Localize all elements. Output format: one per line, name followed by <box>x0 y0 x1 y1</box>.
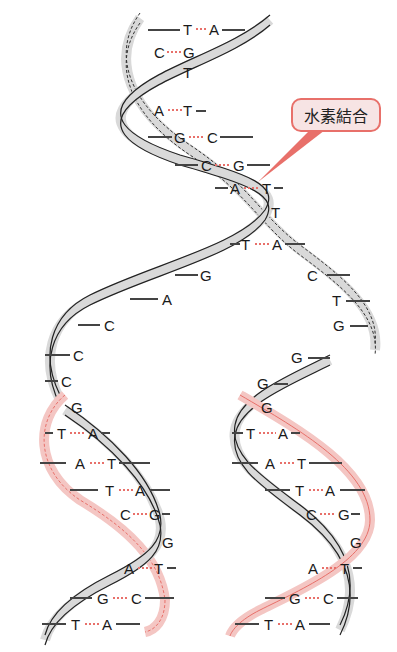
svg-text:A: A <box>278 425 288 442</box>
svg-text:G: G <box>257 375 269 392</box>
svg-text:T: T <box>154 560 163 577</box>
svg-text:A: A <box>325 482 335 499</box>
svg-text:A: A <box>272 236 282 253</box>
svg-text:A: A <box>88 425 98 442</box>
svg-text:C: C <box>120 506 131 523</box>
svg-text:A: A <box>308 560 318 577</box>
svg-text:G: G <box>162 534 174 551</box>
svg-text:T: T <box>57 425 66 442</box>
svg-text:T: T <box>107 455 116 472</box>
svg-text:A: A <box>154 102 164 119</box>
svg-text:G: G <box>200 267 212 284</box>
svg-text:A: A <box>124 560 134 577</box>
svg-text:T: T <box>262 180 271 197</box>
svg-text:A: A <box>295 616 305 633</box>
svg-text:G: G <box>333 317 345 334</box>
svg-text:T: T <box>71 616 80 633</box>
svg-text:T: T <box>105 482 114 499</box>
parent-strand-front <box>50 20 270 400</box>
svg-text:A: A <box>230 180 240 197</box>
svg-text:T: T <box>264 616 273 633</box>
svg-text:C: C <box>131 590 142 607</box>
svg-text:T: T <box>295 482 304 499</box>
svg-text:C: C <box>154 44 165 61</box>
svg-text:G: G <box>183 44 195 61</box>
svg-text:A: A <box>209 21 219 38</box>
svg-text:G: G <box>233 157 245 174</box>
svg-text:C: C <box>306 506 317 523</box>
svg-text:T: T <box>297 455 306 472</box>
svg-text:G: G <box>174 129 186 146</box>
callout-label: 水素結合 <box>304 103 368 127</box>
svg-text:C: C <box>73 347 84 364</box>
svg-text:A: A <box>265 455 275 472</box>
svg-text:A: A <box>75 455 85 472</box>
svg-text:T: T <box>340 560 349 577</box>
svg-text:A: A <box>135 482 145 499</box>
svg-text:C: C <box>201 157 212 174</box>
svg-text:A: A <box>102 616 112 633</box>
svg-text:T: T <box>271 204 280 221</box>
svg-text:T: T <box>241 236 250 253</box>
callout-pointer <box>258 130 325 182</box>
svg-text:G: G <box>289 590 301 607</box>
svg-text:C: C <box>207 129 218 146</box>
svg-text:T: T <box>183 21 192 38</box>
svg-text:G: G <box>338 506 350 523</box>
svg-text:A: A <box>162 291 172 308</box>
svg-text:G: G <box>71 399 83 416</box>
svg-text:G: G <box>261 399 273 416</box>
svg-text:C: C <box>307 267 318 284</box>
svg-text:G: G <box>350 534 362 551</box>
svg-text:G: G <box>97 590 109 607</box>
svg-text:T: T <box>183 102 192 119</box>
svg-text:T: T <box>183 64 192 81</box>
svg-text:C: C <box>61 373 72 390</box>
svg-text:C: C <box>323 590 334 607</box>
svg-text:G: G <box>291 349 303 366</box>
svg-text:C: C <box>104 317 115 334</box>
hydrogen-bond-callout: 水素結合 <box>291 98 381 132</box>
svg-text:T: T <box>332 292 341 309</box>
svg-text:G: G <box>149 506 161 523</box>
top-base-pairs: T A C G T A T G C C G A T T T <box>148 21 305 253</box>
svg-text:T: T <box>246 425 255 442</box>
